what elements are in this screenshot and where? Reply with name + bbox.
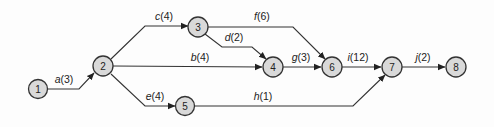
edge-label-g: g(3) [292,51,311,63]
edge-labels: a(3) c(4) b(4) e(4) d(2) f(6) g(3) h(1) … [55,10,431,102]
node-3: 3 [188,17,208,37]
node-6: 6 [322,57,342,77]
network-diagram: a(3) c(4) b(4) e(4) d(2) f(6) g(3) h(1) … [0,0,494,127]
edge-label-a: a(3) [55,73,74,85]
edge-label-j: j(2) [413,51,430,63]
node-8: 8 [446,57,466,77]
edge-c [111,26,188,59]
edge-label-b: b(4) [191,51,210,63]
svg-text:2: 2 [100,61,106,72]
svg-text:1: 1 [35,84,41,95]
node-4: 4 [263,57,283,77]
svg-text:4: 4 [270,62,276,73]
svg-text:5: 5 [182,101,188,112]
node-2: 2 [93,56,113,76]
edge-label-e: e(4) [146,90,165,102]
diagram-svg: a(3) c(4) b(4) e(4) d(2) f(6) g(3) h(1) … [0,0,494,127]
node-7: 7 [382,57,402,77]
svg-text:3: 3 [195,22,201,33]
edge-label-i: i(12) [347,51,368,63]
edge-b [113,66,262,67]
edge-label-f: f(6) [254,10,270,22]
edge-label-d: d(2) [225,31,244,43]
edge-h [195,75,385,106]
edge-label-c: c(4) [155,10,173,22]
svg-text:7: 7 [389,62,395,73]
node-5: 5 [176,97,195,116]
edge-e [111,74,175,106]
svg-text:8: 8 [453,62,459,73]
svg-text:6: 6 [329,62,335,73]
node-1: 1 [29,80,48,99]
nodes: 1 2 3 4 5 6 7 8 [29,17,467,116]
edge-label-h: h(1) [254,90,273,102]
